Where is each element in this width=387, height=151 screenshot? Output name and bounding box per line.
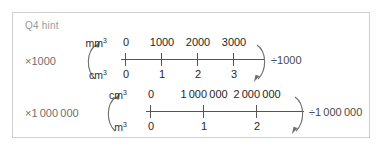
tick-label-top: 0: [123, 36, 129, 48]
multiply-label-mm-cm: ×1000: [25, 55, 56, 67]
divide-label-mm-cm: ÷1000: [271, 54, 302, 66]
axis-tick: [161, 53, 162, 66]
unit-label-cm3: cm3: [95, 89, 127, 101]
tick-label-bottom: 0: [123, 68, 129, 80]
unit-text-m: m: [114, 121, 123, 133]
conversion-row-mm-cm: ×1000 mm3 cm3 00100012000230003 ÷1000: [13, 35, 371, 87]
multiply-label-cm-m: ×1 000 000: [25, 107, 79, 119]
unit-label-mm3: mm3: [75, 37, 107, 49]
axis-tick: [125, 53, 126, 66]
conversion-row-cm-m: ×1 000 000 cm3 m3 001 000 00012 000 0002…: [13, 87, 371, 139]
axis-tick: [256, 105, 257, 118]
unit-exponent-cm: 3: [123, 89, 127, 96]
tick-label-bottom: 1: [159, 68, 165, 80]
number-line-axis: [146, 111, 304, 112]
unit-exponent-m: 3: [123, 121, 127, 128]
number-line-axis: [121, 59, 264, 60]
tick-label-top: 3000: [222, 36, 246, 48]
axis-tick: [150, 105, 151, 118]
axis-tick: [203, 105, 204, 118]
tick-label-bottom: 3: [231, 68, 237, 80]
tick-label-top: 1 000 000: [180, 88, 227, 100]
axis-tick: [233, 53, 234, 66]
tick-label-bottom: 0: [148, 120, 154, 132]
divide-label-cm-m: ÷1 000 000: [309, 106, 362, 118]
tick-label-top: 2 000 000: [233, 88, 280, 100]
tick-label-bottom: 1: [201, 120, 207, 132]
tick-label-bottom: 2: [195, 68, 201, 80]
unit-exponent-cm: 3: [103, 69, 107, 76]
unit-text-cm: cm: [109, 89, 123, 101]
unit-label-cm3: cm3: [75, 69, 107, 81]
tick-label-bottom: 2: [254, 120, 260, 132]
unit-text-cm: cm: [89, 69, 103, 81]
unit-label-m3: m3: [95, 121, 127, 133]
unit-exponent-mm: 3: [103, 37, 107, 44]
hint-title: Q4 hint: [25, 20, 59, 31]
tick-label-top: 0: [148, 88, 154, 100]
hint-card: Q4 hint ×1000 mm3 cm3 00100012000230003 …: [12, 12, 370, 138]
tick-label-top: 2000: [186, 36, 210, 48]
tick-label-top: 1000: [150, 36, 174, 48]
axis-tick: [197, 53, 198, 66]
unit-text-mm: mm: [86, 37, 104, 49]
